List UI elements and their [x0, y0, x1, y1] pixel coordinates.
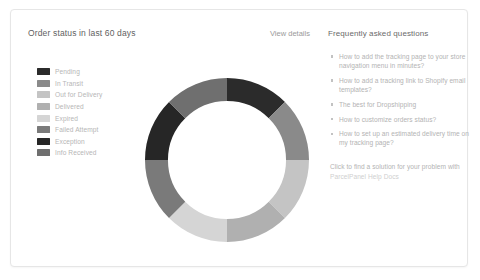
legend-item-label: Pending — [55, 68, 80, 75]
legend-item-label: Delivered — [55, 103, 84, 110]
bullet-icon — [331, 55, 333, 57]
donut-chart-svg — [144, 77, 310, 243]
legend-item-label: Out for Delivery — [55, 91, 102, 98]
faq-item-label: How to set up an estimated delivery time… — [339, 130, 469, 146]
legend-swatch — [37, 149, 50, 156]
donut-chart — [144, 77, 310, 243]
legend-item[interactable]: Expired — [37, 112, 147, 124]
faq-footer: Click to find a solution for your proble… — [330, 162, 472, 181]
page-title: Order status in last 60 days — [28, 28, 136, 38]
panel-header: Order status in last 60 days View detail… — [28, 28, 306, 44]
help-docs-link[interactable]: ParcelPanel Help Docs — [330, 173, 399, 180]
legend-item-label: Expired — [55, 115, 78, 122]
legend-swatch — [37, 103, 50, 110]
faq-item-label: How to add a tracking link to Shopify em… — [339, 77, 465, 93]
legend-item[interactable]: Exception — [37, 136, 147, 148]
legend-item-label: Exception — [55, 138, 85, 145]
donut-segment-group — [145, 78, 309, 242]
faq-list: How to add the tracking page to your sto… — [330, 52, 470, 153]
legend-item-label: Info Received — [55, 149, 97, 156]
faq-item-label: How to customize orders status? — [339, 116, 436, 123]
faq-panel: Frequently asked questions How to add th… — [324, 10, 469, 266]
bullet-icon — [331, 79, 333, 81]
chart-legend: PendingIn TransitOut for DeliveryDeliver… — [37, 66, 147, 159]
faq-item[interactable]: The best for Dropshipping — [330, 100, 470, 109]
legend-swatch — [37, 68, 50, 75]
faq-item[interactable]: How to customize orders status? — [330, 115, 470, 124]
bullet-icon — [331, 118, 333, 120]
faq-footer-text: Click to find a solution for your proble… — [330, 163, 460, 170]
legend-item[interactable]: Delivered — [37, 101, 147, 113]
legend-swatch — [37, 80, 50, 87]
faq-title: Frequently asked questions — [328, 29, 428, 38]
faq-item[interactable]: How to set up an estimated delivery time… — [330, 129, 470, 147]
view-details-link[interactable]: View details — [270, 29, 310, 38]
dashboard-card: Order status in last 60 days View detail… — [10, 9, 468, 267]
order-status-panel: Order status in last 60 days View detail… — [11, 10, 316, 266]
legend-item[interactable]: In Transit — [37, 78, 147, 90]
legend-swatch — [37, 138, 50, 145]
legend-item[interactable]: Pending — [37, 66, 147, 78]
bullet-icon — [331, 103, 333, 105]
bullet-icon — [331, 133, 333, 135]
legend-item-label: Failed Attempt — [55, 126, 99, 133]
faq-item-label: The best for Dropshipping — [339, 101, 416, 108]
legend-item[interactable]: Info Received — [37, 147, 147, 159]
legend-swatch — [37, 126, 50, 133]
legend-item-label: In Transit — [55, 80, 83, 87]
faq-item-label: How to add the tracking page to your sto… — [339, 53, 465, 69]
legend-item[interactable]: Out for Delivery — [37, 89, 147, 101]
faq-item[interactable]: How to add a tracking link to Shopify em… — [330, 76, 470, 94]
legend-swatch — [37, 115, 50, 122]
legend-item[interactable]: Failed Attempt — [37, 124, 147, 136]
legend-swatch — [37, 91, 50, 98]
faq-item[interactable]: How to add the tracking page to your sto… — [330, 52, 470, 70]
